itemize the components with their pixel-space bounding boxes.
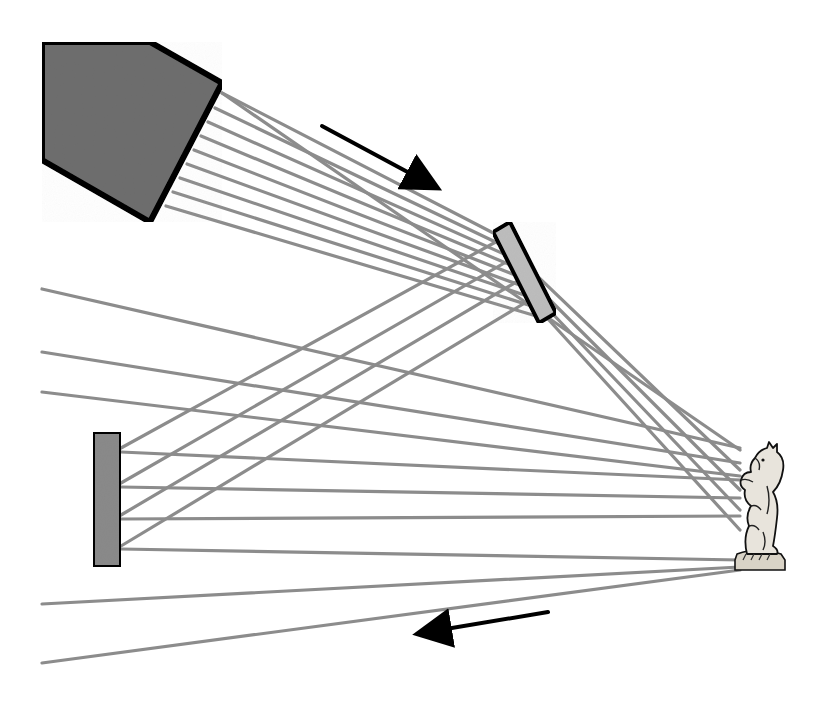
- arrow-return: [428, 612, 548, 632]
- ray-left_mirror_to_object: [121, 516, 740, 519]
- diagram-canvas: [0, 0, 828, 703]
- ray-source_to_object: [222, 93, 740, 450]
- mirror-top: [493, 222, 556, 323]
- mirror-left: [93, 432, 121, 567]
- ray-mirror_to_left: [121, 258, 513, 483]
- chess-knight-object: [735, 442, 785, 570]
- knight-eye: [761, 458, 764, 461]
- ray-mirror_to_object: [508, 248, 740, 470]
- laser-source: [42, 42, 222, 222]
- ray-left_mirror_to_object: [121, 549, 740, 560]
- ray-left_mirror_to_object: [121, 487, 740, 498]
- holography-diagram: [0, 0, 828, 703]
- ray-source_to_mirror: [180, 178, 533, 298]
